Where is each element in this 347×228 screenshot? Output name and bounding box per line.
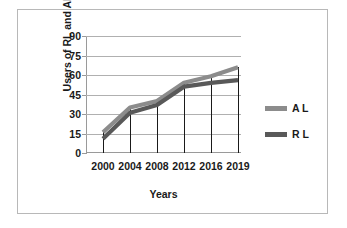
chart-frame: Users of RL and AL 90 75 60 45 30 15 0	[17, 9, 328, 214]
y-axis-title: Users of RL and AL	[60, 0, 74, 98]
legend-swatch-al	[265, 106, 287, 111]
legend-item-rl: R L	[265, 128, 323, 141]
y-tick-label-90: 90	[60, 31, 81, 42]
y-tick-label-75: 75	[60, 51, 81, 62]
series-line-rl	[103, 80, 238, 139]
y-tick-label-0: 0	[60, 148, 81, 159]
y-tick-label-60: 60	[60, 70, 81, 81]
series-line-al	[103, 67, 238, 132]
legend-label-al: A L	[292, 102, 309, 115]
legend-swatch-rl	[265, 132, 287, 137]
plot-area: 90 75 60 45 30 15 0	[86, 36, 241, 153]
y-tick-label-45: 45	[60, 90, 81, 101]
legend-label-rl: R L	[292, 128, 309, 141]
x-tick-label-2008: 2008	[142, 160, 172, 172]
x-tick-label-2000: 2000	[88, 160, 118, 172]
x-tick-label-2004: 2004	[115, 160, 145, 172]
x-axis-title: Years	[86, 188, 241, 200]
legend-item-al: A L	[265, 102, 323, 115]
y-tick-label-15: 15	[60, 129, 81, 140]
series-lines	[86, 36, 241, 154]
x-tick-label-2016: 2016	[196, 160, 226, 172]
x-tick-label-2012: 2012	[169, 160, 199, 172]
y-tick-label-30: 30	[60, 109, 81, 120]
x-tick-label-2019: 2019	[223, 160, 253, 172]
chart-legend: A L R L	[265, 102, 323, 154]
